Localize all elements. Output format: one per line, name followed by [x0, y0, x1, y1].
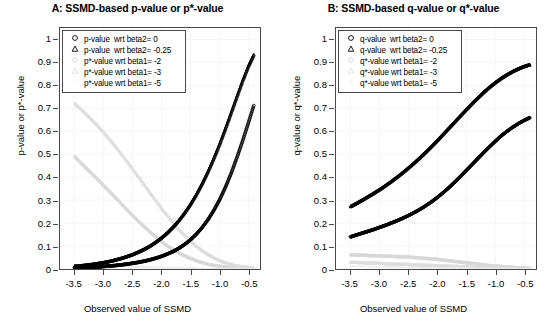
legend-label: p-value wrt beta2= 0: [84, 35, 158, 44]
panel-b-legend: q-value wrt beta2= 0q-value wrt beta2= -…: [338, 30, 462, 93]
x-tick-mark: [437, 270, 438, 275]
legend-label: p*-value wrt beta1= -2: [84, 57, 161, 66]
legend-label: p*-value wrt beta1= -5: [84, 79, 161, 88]
legend-triangle-icon: [342, 45, 360, 56]
legend-circle-icon: [342, 34, 360, 45]
y-tick-mark: [329, 270, 334, 271]
y-tick-label: 0.5: [281, 149, 327, 159]
y-tick-mark: [53, 131, 58, 132]
legend-item: q*-value wrt beta1= -2: [339, 56, 461, 67]
x-tick-mark: [220, 270, 221, 275]
legend-dot-icon: [66, 78, 84, 89]
x-tick-mark: [132, 270, 133, 275]
x-tick-label: -0.5: [505, 278, 545, 289]
y-tick-mark: [53, 247, 58, 248]
legend-label: q-value wrt beta2= 0: [360, 35, 434, 44]
legend-label: p-value wrt beta2= -0.25: [84, 46, 171, 55]
y-tick-mark: [53, 85, 58, 86]
legend-item: q-value wrt beta2= 0: [339, 34, 461, 45]
y-tick-mark: [329, 39, 334, 40]
y-tick-label: 0.7: [281, 103, 327, 113]
y-tick-label: 0.2: [281, 219, 327, 229]
y-tick-mark: [53, 154, 58, 155]
x-tick-mark: [161, 270, 162, 275]
legend-item: p-value wrt beta2= 0: [63, 34, 185, 45]
x-tick-mark: [496, 270, 497, 275]
legend-dot-icon: [342, 78, 360, 89]
y-tick-label: 0: [281, 265, 327, 275]
panel-b-y-ticks: 00.10.20.30.40.50.60.70.80.91: [276, 0, 327, 333]
y-tick-label: 0.8: [281, 80, 327, 90]
y-tick-mark: [53, 177, 58, 178]
y-tick-label: 1: [281, 34, 327, 44]
y-tick-label: 0.1: [5, 242, 51, 252]
y-tick-label: 0.3: [5, 196, 51, 206]
y-tick-mark: [329, 154, 334, 155]
y-tick-label: 0.9: [5, 57, 51, 67]
y-tick-label: 0.3: [281, 196, 327, 206]
x-tick-mark: [74, 270, 75, 275]
figure-root: A: SSMD-based p-value or p*-value p-valu…: [0, 0, 551, 333]
y-tick-mark: [329, 108, 334, 109]
legend-item: q-value wrt beta2= -0.25: [339, 45, 461, 56]
legend-circle-icon: [342, 56, 360, 67]
legend-item: p*-value wrt beta1= -5: [63, 78, 185, 89]
panel-b: B: SSMD-based q-value or q*-value q-valu…: [276, 0, 551, 333]
y-tick-label: 0.2: [5, 219, 51, 229]
panel-a: A: SSMD-based p-value or p*-value p-valu…: [0, 0, 275, 333]
panel-a-legend: p-value wrt beta2= 0p-value wrt beta2= -…: [62, 30, 186, 93]
legend-label: q-value wrt beta2= -0.25: [360, 46, 447, 55]
y-tick-label: 0.8: [5, 80, 51, 90]
panel-a-y-ticks: 00.10.20.30.40.50.60.70.80.91: [0, 0, 51, 333]
x-tick-mark: [408, 270, 409, 275]
y-tick-label: 0.5: [5, 149, 51, 159]
y-tick-mark: [53, 62, 58, 63]
y-tick-mark: [53, 39, 58, 40]
y-tick-label: 0.4: [281, 172, 327, 182]
legend-triangle-icon: [66, 45, 84, 56]
legend-label: q*-value wrt beta1= -5: [360, 79, 437, 88]
y-tick-label: 0.6: [281, 126, 327, 136]
legend-circle-icon: [66, 34, 84, 45]
legend-item: p-value wrt beta2= -0.25: [63, 45, 185, 56]
x-tick-mark: [350, 270, 351, 275]
x-tick-mark: [249, 270, 250, 275]
legend-item: p*-value wrt beta1= -2: [63, 56, 185, 67]
legend-label: q*-value wrt beta1= -3: [360, 68, 437, 77]
legend-item: q*-value wrt beta1= -3: [339, 67, 461, 78]
y-tick-label: 0: [5, 265, 51, 275]
y-tick-mark: [329, 177, 334, 178]
x-tick-mark: [467, 270, 468, 275]
legend-triangle-icon: [66, 67, 84, 78]
legend-circle-icon: [66, 56, 84, 67]
x-tick-mark: [379, 270, 380, 275]
x-tick-label: -0.5: [229, 278, 269, 289]
y-tick-mark: [53, 201, 58, 202]
legend-label: q*-value wrt beta1= -2: [360, 57, 437, 66]
y-tick-mark: [329, 224, 334, 225]
y-tick-label: 0.6: [5, 126, 51, 136]
x-tick-mark: [191, 270, 192, 275]
y-tick-mark: [329, 247, 334, 248]
y-tick-mark: [329, 62, 334, 63]
y-tick-mark: [53, 108, 58, 109]
y-tick-mark: [53, 224, 58, 225]
y-tick-mark: [329, 131, 334, 132]
y-tick-mark: [329, 201, 334, 202]
y-tick-label: 0.1: [281, 242, 327, 252]
y-tick-mark: [53, 270, 58, 271]
y-tick-label: 0.7: [5, 103, 51, 113]
y-tick-label: 1: [5, 34, 51, 44]
legend-triangle-icon: [342, 67, 360, 78]
legend-item: p*-value wrt beta1= -3: [63, 67, 185, 78]
x-tick-mark: [525, 270, 526, 275]
y-tick-label: 0.9: [281, 57, 327, 67]
y-tick-label: 0.4: [5, 172, 51, 182]
legend-label: p*-value wrt beta1= -3: [84, 68, 161, 77]
y-tick-mark: [329, 85, 334, 86]
legend-item: q*-value wrt beta1= -5: [339, 78, 461, 89]
x-tick-mark: [103, 270, 104, 275]
